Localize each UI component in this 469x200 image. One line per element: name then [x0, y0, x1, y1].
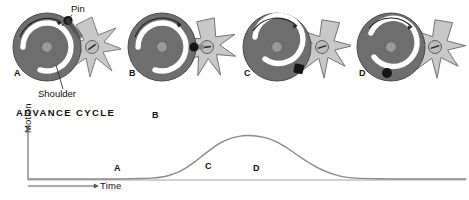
cam-disc-c	[243, 13, 311, 81]
stage-b-svg	[121, 6, 236, 88]
stage-b-diagram: B	[121, 6, 236, 88]
x-axis-arrow	[94, 184, 99, 189]
stage-d-letter: D	[359, 68, 366, 78]
stage-c-svg	[236, 6, 351, 88]
stage-a-letter: A	[14, 68, 21, 78]
pin-b	[189, 42, 198, 51]
advance-cycle-plot	[0, 118, 469, 200]
stage-d-svg	[351, 6, 466, 88]
y-axis-arrow	[26, 125, 30, 130]
stage-d-diagram: D	[351, 6, 466, 88]
chart-marker-d: D	[253, 163, 260, 173]
chart-marker-a: A	[114, 163, 121, 173]
shoulder-leader-line	[54, 64, 68, 90]
cam-disc-d	[357, 13, 425, 81]
chart-marker-b: B	[152, 110, 159, 120]
advance-cycle-svg	[0, 118, 469, 200]
pin-d	[382, 68, 392, 78]
stage-c-diagram: C	[236, 6, 351, 88]
cam-disc-b	[128, 13, 202, 81]
chart-marker-c: C	[205, 161, 212, 171]
pin-leader-line	[60, 14, 80, 28]
stage-c-letter: C	[244, 68, 251, 78]
motion-curve	[29, 135, 466, 179]
stage-b-letter: B	[129, 68, 136, 78]
pin-callout-label: Pin	[71, 3, 85, 14]
pin-c	[293, 63, 304, 74]
